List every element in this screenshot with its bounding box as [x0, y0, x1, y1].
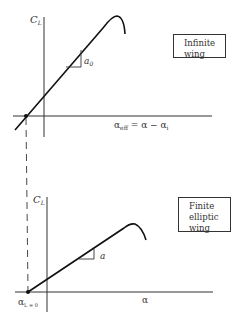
top-slope-label: a0 [84, 57, 93, 67]
box-line: wing [184, 49, 221, 60]
zero-lift-dashed-line [26, 118, 28, 291]
box-line: Finite [189, 201, 226, 212]
top-x-axis-label: αeff = α − αi [114, 121, 169, 131]
finite-elliptic-wing-box: Finite elliptic wing [178, 197, 231, 232]
top-slope-triangle [66, 50, 81, 67]
bottom-cl-label: CL [33, 195, 45, 206]
top-lift-curve [15, 16, 125, 130]
bottom-x-axis-label: α [142, 296, 148, 305]
bottom-zero-lift-point [26, 290, 30, 294]
bottom-slope-triangle [79, 249, 94, 259]
box-line: Infinite [184, 38, 221, 49]
top-zero-lift-point [24, 114, 28, 118]
box-line: elliptic [189, 212, 226, 223]
infinite-wing-box: Infinite wing [173, 34, 226, 58]
zero-lift-angle-label: αL = 0 [18, 298, 38, 308]
bottom-slope-label: a [100, 252, 105, 261]
box-line: wing [189, 223, 226, 234]
bottom-lift-curve [28, 224, 146, 292]
top-cl-label: CL [30, 15, 42, 26]
